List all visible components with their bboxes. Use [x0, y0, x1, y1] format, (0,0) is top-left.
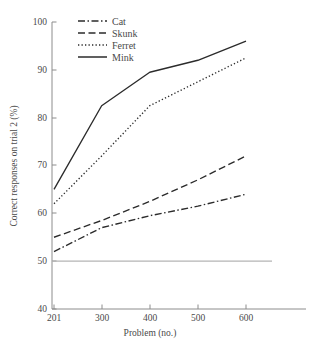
- x-tick-label-400: 400: [143, 313, 158, 323]
- series-line-mink: [54, 41, 246, 189]
- y-tick-label-70: 70: [38, 160, 48, 170]
- x-tick-label-201: 201: [47, 313, 62, 323]
- y-tick-label-100: 100: [33, 17, 48, 27]
- y-tick-marks: [52, 22, 57, 309]
- legend-entry-ferret: Ferret: [78, 40, 136, 51]
- figure-container: 40 50 60 70 80 90 100 201 300 400 500 60…: [0, 0, 318, 358]
- legend-entry-mink: Mink: [78, 52, 134, 63]
- legend-entry-skunk: Skunk: [78, 28, 138, 39]
- y-tick-label-60: 60: [38, 208, 48, 218]
- x-tick-label-300: 300: [95, 313, 110, 323]
- y-axis-title: Correct responses on trial 2 (%): [9, 105, 20, 226]
- series-line-cat: [54, 194, 246, 251]
- x-tick-marks: [54, 305, 246, 310]
- line-chart: 40 50 60 70 80 90 100 201 300 400 500 60…: [0, 0, 318, 358]
- y-tick-label-40: 40: [38, 304, 48, 314]
- y-tick-label-90: 90: [38, 65, 48, 75]
- legend-label-mink: Mink: [112, 52, 134, 63]
- x-tick-label-500: 500: [191, 313, 206, 323]
- series-line-skunk: [54, 156, 246, 237]
- legend: Cat Skunk Ferret Mink: [78, 16, 138, 63]
- x-tick-label-600: 600: [239, 313, 254, 323]
- legend-label-ferret: Ferret: [112, 40, 136, 51]
- legend-label-skunk: Skunk: [112, 28, 138, 39]
- series-line-ferret: [54, 58, 246, 204]
- y-tick-label-80: 80: [38, 113, 48, 123]
- y-tick-label-50: 50: [38, 256, 48, 266]
- x-axis-title: Problem (no.): [124, 328, 177, 339]
- legend-label-cat: Cat: [112, 16, 126, 27]
- legend-entry-cat: Cat: [78, 16, 126, 27]
